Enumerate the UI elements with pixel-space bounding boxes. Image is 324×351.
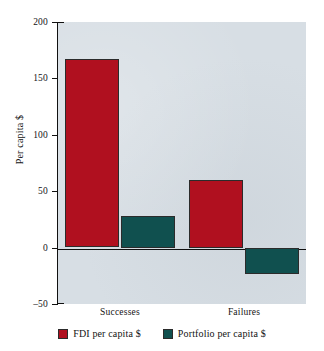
legend-item-portfolio[interactable]: Portfolio per capita $ xyxy=(163,328,266,339)
x-axis-label-failures: Failures xyxy=(194,307,294,317)
y-axis-line xyxy=(57,22,58,304)
y-tick-mark xyxy=(52,191,58,192)
x-axis-label-successes: Successes xyxy=(70,307,170,317)
y-tick-mark xyxy=(52,78,58,79)
bar-successes-fdi[interactable] xyxy=(65,59,119,247)
legend-label-portfolio: Portfolio per capita $ xyxy=(178,328,266,339)
y-tick-label: –50 xyxy=(33,299,48,309)
y-tick-label: 100 xyxy=(33,130,48,140)
y-tick-mark xyxy=(52,22,58,23)
y-tick-mark xyxy=(52,135,58,136)
y-tick-label: 150 xyxy=(33,73,48,83)
chart-legend: FDI per capita $ Portfolio per capita $ xyxy=(0,328,324,339)
y-axis-top-cap xyxy=(57,22,64,23)
y-tick-label: 0 xyxy=(43,243,48,253)
y-axis-title: Per capita $ xyxy=(14,90,25,190)
legend-item-fdi[interactable]: FDI per capita $ xyxy=(58,328,141,339)
chart-container: Per capita $ 200150100500–50 SuccessesFa… xyxy=(0,0,324,351)
bar-failures-fdi[interactable] xyxy=(189,180,243,248)
legend-swatch-icon-portfolio xyxy=(163,329,173,339)
legend-label-fdi: FDI per capita $ xyxy=(73,328,141,339)
y-tick-mark xyxy=(52,304,58,305)
bar-successes-portfolio[interactable] xyxy=(121,216,175,248)
bar-failures-portfolio[interactable] xyxy=(245,248,299,274)
y-tick-label: 50 xyxy=(38,186,48,196)
y-tick-label: 200 xyxy=(33,17,48,27)
legend-swatch-icon-fdi xyxy=(58,329,68,339)
y-axis-bottom-cap xyxy=(57,303,64,304)
